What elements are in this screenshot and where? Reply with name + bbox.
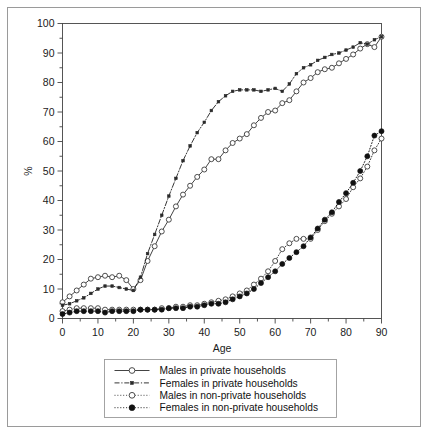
marker-open-circle xyxy=(273,258,278,263)
marker-open-circle xyxy=(95,275,100,280)
y-tick-label: 30 xyxy=(43,224,55,236)
marker-open-circle xyxy=(81,282,86,287)
marker-open-circle xyxy=(74,288,79,293)
marker-open-circle xyxy=(266,269,271,274)
legend-item-label: Males in private households xyxy=(160,365,286,376)
x-tick-label: 90 xyxy=(376,326,388,338)
marker-small-square xyxy=(153,233,156,236)
marker-small-square xyxy=(196,131,199,134)
marker-small-square xyxy=(90,292,93,295)
marker-open-circle xyxy=(280,101,285,106)
marker-filled-circle xyxy=(266,275,271,280)
marker-filled-circle xyxy=(223,300,228,305)
marker-open-circle xyxy=(223,148,228,153)
legend-item-label: Females in non-private households xyxy=(160,402,319,413)
marker-filled-circle xyxy=(336,199,341,204)
series-line xyxy=(63,37,382,305)
marker-filled-circle xyxy=(131,309,136,314)
marker-small-square xyxy=(373,38,376,41)
y-tick-label: 0 xyxy=(49,312,55,324)
marker-small-square xyxy=(352,46,355,49)
marker-small-square xyxy=(132,289,135,292)
marker-small-square xyxy=(267,89,270,92)
series-line xyxy=(63,131,382,314)
marker-filled-circle xyxy=(195,304,200,309)
marker-small-square xyxy=(210,109,213,112)
marker-filled-circle xyxy=(216,301,221,306)
marker-open-circle xyxy=(88,276,93,281)
marker-open-circle xyxy=(273,108,278,113)
marker-open-circle xyxy=(322,67,327,72)
marker-open-circle xyxy=(351,52,356,57)
marker-small-square xyxy=(189,145,192,148)
marker-open-circle xyxy=(195,174,200,179)
marker-open-circle xyxy=(188,183,193,188)
marker-filled-circle xyxy=(173,306,178,311)
marker-open-circle xyxy=(129,392,135,398)
marker-open-circle xyxy=(67,294,72,299)
y-tick-label: 20 xyxy=(43,253,55,265)
y-tick-label: 10 xyxy=(43,283,55,295)
marker-small-square xyxy=(97,288,100,291)
marker-filled-circle xyxy=(202,303,207,308)
marker-open-circle xyxy=(173,204,178,209)
marker-filled-circle xyxy=(358,169,363,174)
marker-filled-circle xyxy=(117,309,122,314)
marker-filled-circle xyxy=(273,269,278,274)
marker-filled-circle xyxy=(188,304,193,309)
marker-small-square xyxy=(146,252,149,255)
marker-open-circle xyxy=(336,61,341,66)
marker-open-circle xyxy=(258,115,263,120)
marker-small-square xyxy=(82,297,85,300)
marker-small-square xyxy=(111,285,114,288)
marker-open-circle xyxy=(287,241,292,246)
marker-small-square xyxy=(274,87,277,90)
marker-small-square xyxy=(238,89,241,92)
marker-filled-circle xyxy=(280,261,285,266)
marker-small-square xyxy=(253,89,256,92)
marker-filled-circle xyxy=(129,405,135,411)
marker-small-square xyxy=(345,49,348,52)
marker-filled-circle xyxy=(209,301,214,306)
x-tick-label: 10 xyxy=(92,326,104,338)
marker-open-circle xyxy=(251,123,256,128)
marker-filled-circle xyxy=(138,307,143,312)
marker-open-circle xyxy=(124,278,129,283)
marker-small-square xyxy=(316,59,319,62)
line-chart: 0102030405060708090100010203040506070809… xyxy=(0,0,430,436)
series-line xyxy=(63,37,382,302)
marker-open-circle xyxy=(294,89,299,94)
marker-filled-circle xyxy=(159,307,164,312)
chart-legend[interactable]: Males in private householdsFemales in pr… xyxy=(105,360,337,418)
marker-open-circle xyxy=(117,273,122,278)
marker-filled-circle xyxy=(145,307,150,312)
marker-small-square xyxy=(104,285,107,288)
marker-small-square xyxy=(288,83,291,86)
marker-small-square xyxy=(168,195,171,198)
series-0 xyxy=(60,34,384,305)
marker-filled-circle xyxy=(166,306,171,311)
marker-open-circle xyxy=(103,273,108,278)
marker-small-square xyxy=(61,304,64,307)
marker-small-square xyxy=(131,381,134,384)
marker-open-circle xyxy=(280,247,285,252)
marker-filled-circle xyxy=(329,210,334,215)
marker-open-circle xyxy=(244,132,249,137)
marker-open-circle xyxy=(301,80,306,85)
marker-filled-circle xyxy=(258,281,263,286)
marker-open-circle xyxy=(152,244,157,249)
marker-small-square xyxy=(246,89,249,92)
marker-small-square xyxy=(217,100,220,103)
x-tick-label: 20 xyxy=(128,326,140,338)
marker-small-square xyxy=(380,35,383,38)
marker-filled-circle xyxy=(181,306,186,311)
y-tick-label: 80 xyxy=(43,76,55,88)
marker-open-circle xyxy=(329,65,334,70)
marker-open-circle xyxy=(159,229,164,234)
marker-open-circle xyxy=(216,157,221,162)
marker-open-circle xyxy=(308,76,313,81)
marker-filled-circle xyxy=(60,312,65,317)
x-tick-label: 50 xyxy=(234,326,246,338)
figure-container: 0102030405060708090100010203040506070809… xyxy=(0,0,430,436)
y-tick-label: 70 xyxy=(43,106,55,118)
